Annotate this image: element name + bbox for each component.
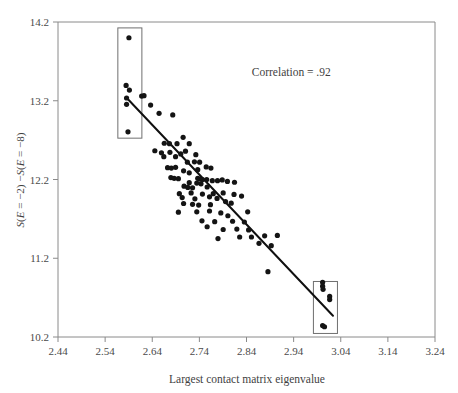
data-point xyxy=(190,202,195,207)
data-point xyxy=(167,150,172,155)
data-point xyxy=(275,233,280,238)
data-point xyxy=(225,179,230,184)
data-point xyxy=(194,209,199,214)
y-tick-label: 10.2 xyxy=(30,331,49,343)
data-point xyxy=(231,192,236,197)
data-point xyxy=(183,149,188,154)
data-point xyxy=(214,196,219,201)
data-point xyxy=(246,227,251,232)
data-point xyxy=(167,141,172,146)
data-point xyxy=(265,269,270,274)
data-point xyxy=(239,193,244,198)
x-tick-label: 2.54 xyxy=(96,345,116,357)
data-point xyxy=(212,219,217,224)
data-point xyxy=(185,160,190,165)
data-point xyxy=(187,141,192,146)
y-tick-label: 14.2 xyxy=(30,16,49,28)
y-tick-label: 12.2 xyxy=(30,174,49,186)
data-point xyxy=(223,199,228,204)
data-point xyxy=(174,141,179,146)
x-tick-label: 3.14 xyxy=(378,345,398,357)
data-point xyxy=(190,185,195,190)
regression-line-group xyxy=(128,99,333,316)
data-point xyxy=(187,180,192,185)
data-point xyxy=(194,180,199,185)
data-point xyxy=(256,241,261,246)
data-point xyxy=(173,165,178,170)
data-point xyxy=(229,201,234,206)
left-highlight-box xyxy=(118,28,142,138)
data-point xyxy=(245,209,250,214)
data-point xyxy=(225,213,230,218)
data-point xyxy=(205,224,210,229)
data-points xyxy=(123,35,332,329)
data-point xyxy=(204,177,209,182)
data-point xyxy=(199,218,204,223)
data-point xyxy=(234,227,239,232)
data-point xyxy=(156,111,161,116)
data-point xyxy=(320,287,325,292)
x-tick-label: 3.24 xyxy=(425,345,445,357)
data-point xyxy=(249,234,254,239)
data-point xyxy=(205,184,210,189)
data-point xyxy=(170,112,175,117)
correlation-annotation: Correlation = .92 xyxy=(252,66,331,78)
data-point xyxy=(189,190,194,195)
data-point xyxy=(211,191,216,196)
data-point xyxy=(124,95,129,100)
data-point xyxy=(181,135,186,140)
data-point xyxy=(221,227,226,232)
data-point xyxy=(269,243,274,248)
data-point xyxy=(208,165,213,170)
data-point xyxy=(196,202,201,207)
data-point xyxy=(197,160,202,165)
axis-frame xyxy=(58,22,435,337)
y-tick-label: 13.2 xyxy=(30,95,49,107)
data-point xyxy=(126,35,131,40)
chart-canvas: 2.442.542.642.742.842.943.043.143.24 10.… xyxy=(0,0,458,393)
x-axis-title: Largest contact matrix eigenvalue xyxy=(169,373,325,386)
x-tick-label: 2.44 xyxy=(48,345,68,357)
data-point xyxy=(262,233,267,238)
data-point xyxy=(232,180,237,185)
data-point xyxy=(237,234,242,239)
data-point xyxy=(176,210,181,215)
data-point xyxy=(242,219,247,224)
data-point xyxy=(207,208,212,213)
y-axis-ticks: 10.211.212.213.214.2 xyxy=(30,16,58,343)
x-tick-label: 2.64 xyxy=(143,345,163,357)
data-point xyxy=(123,83,128,88)
data-point xyxy=(125,129,130,134)
x-tick-label: 2.74 xyxy=(190,345,210,357)
data-point xyxy=(181,201,186,206)
x-tick-label: 2.84 xyxy=(237,345,257,357)
data-point xyxy=(193,152,198,157)
data-point xyxy=(220,177,225,182)
data-point xyxy=(192,159,197,164)
data-point xyxy=(148,102,153,107)
scatter-plot-figure: 2.442.542.642.742.842.943.043.143.24 10.… xyxy=(0,0,458,393)
chart-annotations: Correlation = .92 xyxy=(252,66,331,78)
data-point xyxy=(173,154,178,159)
data-point xyxy=(208,202,213,207)
data-point xyxy=(221,190,226,195)
x-tick-label: 2.94 xyxy=(284,345,304,357)
data-point xyxy=(215,178,220,183)
data-point xyxy=(124,102,129,107)
regression-line xyxy=(128,99,333,316)
y-axis-title-text: S(E = −2) −S(E = −8) xyxy=(14,132,27,227)
data-point xyxy=(195,167,200,172)
y-tick-label: 11.2 xyxy=(30,252,49,264)
data-point xyxy=(192,196,197,201)
data-point xyxy=(200,191,205,196)
data-point xyxy=(152,148,157,153)
plot-frame xyxy=(58,22,435,337)
data-point xyxy=(180,195,185,200)
y-label-val2: = −8) xyxy=(14,132,27,159)
data-point xyxy=(230,219,235,224)
data-point xyxy=(127,88,132,93)
data-point xyxy=(185,185,190,190)
data-point xyxy=(176,176,181,181)
data-point xyxy=(210,178,215,183)
x-axis-ticks: 2.442.542.642.742.842.943.043.143.24 xyxy=(48,337,445,357)
